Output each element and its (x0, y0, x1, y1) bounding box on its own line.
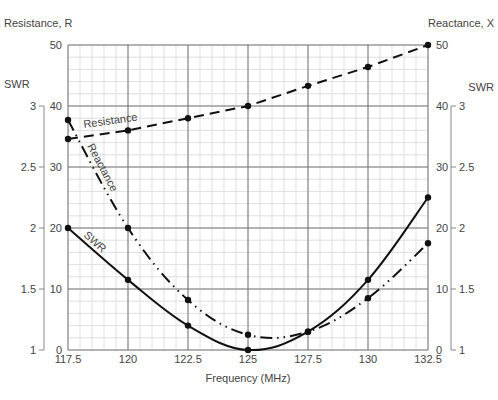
right-axis-title: Reactance, X (428, 17, 495, 29)
swr-point (65, 225, 71, 231)
x-tick-label: 127.5 (294, 353, 322, 365)
reactance-point (125, 225, 131, 231)
left-swr-tick-label: 3 (30, 100, 36, 112)
resistance-point (425, 42, 431, 48)
left-swr-title: SWR (4, 78, 30, 90)
swr-point (185, 322, 191, 328)
resistance-annotation: Resistance (83, 111, 139, 130)
right-swr-tick-label: 2 (459, 222, 465, 234)
resistance-point (65, 136, 71, 142)
right-swr-tick-label: 2.5 (459, 161, 474, 173)
resistance-point (245, 103, 251, 109)
swr-point (365, 277, 371, 283)
reactance-point (365, 295, 371, 301)
swr-chart: 0010102020303040405050117.5120122.512512… (0, 0, 498, 400)
left-swr-tick-label: 1 (30, 344, 36, 356)
x-tick-label: 125 (239, 353, 257, 365)
left-y-tick-label: 50 (50, 39, 62, 51)
swr-point (305, 329, 311, 335)
x-tick-label: 130 (359, 353, 377, 365)
chart-canvas: 0010102020303040405050117.5120122.512512… (0, 0, 498, 400)
swr-point (125, 277, 131, 283)
left-swr-tick-label: 2 (30, 222, 36, 234)
right-swr-tick-label: 1 (459, 344, 465, 356)
right-y-tick-label: 30 (436, 161, 448, 173)
left-axis-title: Resistance, R (4, 17, 73, 29)
reactance-point (65, 117, 71, 123)
right-y-tick-label: 40 (436, 100, 448, 112)
x-tick-label: 117.5 (55, 353, 82, 365)
right-swr-tick-label: 3 (459, 100, 465, 112)
right-swr-tick-label: 1.5 (459, 283, 474, 295)
x-axis-title: Frequency (MHz) (206, 372, 291, 384)
resistance-point (365, 64, 371, 70)
left-swr-tick-label: 1.5 (21, 283, 36, 295)
left-y-tick-label: 40 (50, 100, 62, 112)
reactance-point (245, 332, 251, 338)
left-swr-tick-label: 2.5 (21, 161, 36, 173)
resistance-point (185, 115, 191, 121)
reactance-point (185, 297, 191, 303)
left-y-tick-label: 30 (50, 161, 62, 173)
axis-labels: Resistance, R Reactance, X SWR SWR Frequ… (4, 17, 495, 384)
swr-point (245, 347, 251, 353)
right-y-tick-label: 10 (436, 283, 448, 295)
left-y-tick-label: 20 (50, 222, 62, 234)
resistance-point (305, 83, 311, 89)
x-tick-label: 132.5 (414, 353, 442, 365)
swr-point (425, 194, 431, 200)
x-tick-label: 122.5 (174, 353, 202, 365)
left-y-tick-label: 10 (50, 283, 62, 295)
right-swr-title: SWR (468, 81, 494, 93)
right-y-tick-label: 20 (436, 222, 448, 234)
resistance-point (125, 127, 131, 133)
major-grid (68, 45, 428, 350)
right-y-tick-label: 50 (436, 39, 448, 51)
reactance-point (425, 240, 431, 246)
x-tick-label: 120 (119, 353, 137, 365)
